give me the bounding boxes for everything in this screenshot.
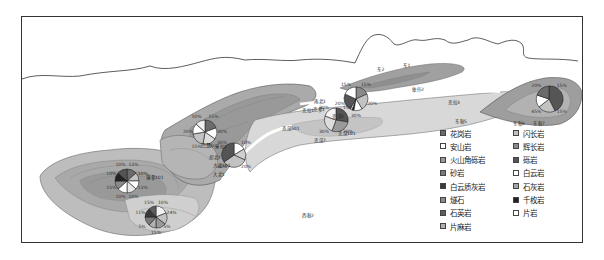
legend-label: 白云质灰岩 — [450, 181, 485, 192]
legend-swatch-icon — [440, 210, 446, 216]
legend-label: 闪长岩 — [523, 128, 544, 139]
pie-percent-label: 15% — [557, 110, 567, 115]
pie-percent-label: 11% — [135, 211, 145, 216]
legend-item: 砾岩 — [513, 155, 537, 165]
pie-percent-label: 5% — [164, 225, 171, 230]
pie-percent-label: 10% — [241, 141, 251, 146]
legend-label: 砾岩 — [523, 154, 537, 165]
pie-percent-label: 15% — [341, 83, 351, 88]
legend-label: 花岗岩 — [450, 128, 471, 139]
place-label: 东秋5 — [455, 119, 467, 124]
place-label: 牙拉1 — [215, 144, 227, 149]
pie-percent-label: 15% — [151, 231, 161, 236]
pie-percent-label: 30% — [319, 130, 329, 135]
legend-swatch-icon — [440, 170, 446, 176]
pie-chart-keshen1 — [193, 120, 217, 144]
pie-percent-label: 24% — [167, 211, 177, 216]
place-label: 蒲参101 — [146, 175, 164, 180]
pie-percent-label: 15% — [209, 115, 219, 120]
legend-label: 砂岩 — [450, 167, 464, 178]
place-label: 却北1 — [209, 155, 221, 160]
legend-label: 辉长岩 — [523, 141, 544, 152]
pie-percent-label: 5% — [138, 225, 145, 230]
place-label: 东1 — [403, 63, 410, 68]
pie-percent-label: 45% — [531, 110, 541, 115]
legend-item: 石灰岩 — [513, 181, 544, 191]
pie-percent-label: 20% — [531, 84, 541, 89]
legend-swatch-icon — [440, 197, 446, 203]
legend-item: 火山角砾岩 — [440, 155, 485, 165]
place-label: 东秋6 — [513, 121, 525, 126]
legend-label: 安山岩 — [450, 141, 471, 152]
pie-percent-label: 15% — [192, 145, 202, 150]
pie-percent-label: 15% — [106, 186, 116, 191]
place-label: 西秋2 — [302, 213, 314, 218]
legend-item: 白云岩 — [513, 168, 544, 178]
place-label: 大北101 — [213, 163, 231, 168]
place-label: 东秋7 — [533, 121, 545, 126]
legend-item: 千枚岩 — [513, 195, 544, 205]
place-label: 依什2 — [412, 87, 424, 92]
place-label: 巴楚1 — [201, 143, 213, 148]
pie-percent-label: 20% — [183, 130, 193, 135]
place-label: 东2 — [377, 67, 384, 72]
legend-swatch-icon — [440, 223, 446, 229]
pie-percent-label: 30% — [351, 114, 361, 119]
legend-swatch-icon — [440, 143, 446, 149]
legend-label: 片麻岩 — [450, 221, 471, 232]
mountain-boundary — [22, 34, 578, 79]
pie-percent-label: 10% — [158, 201, 168, 206]
place-label: 克参1 — [313, 107, 325, 112]
legend-swatch-icon — [513, 210, 519, 216]
pie-percent-label: 10% — [106, 172, 116, 177]
pie-percent-label: 20% — [367, 102, 377, 107]
legend-swatch-icon — [513, 183, 519, 189]
pie-percent-label: 15% — [361, 83, 371, 88]
place-label: 克拉3 — [448, 100, 460, 105]
pie-percent-label: 13% — [138, 186, 148, 191]
legend-item: 白云质灰岩 — [440, 181, 485, 191]
pie-percent-label: 10% — [115, 163, 125, 168]
legend-label: 石灰岩 — [523, 181, 544, 192]
legend-label: 片岩 — [523, 207, 537, 218]
legend-item: 砂岩 — [440, 168, 464, 178]
place-label: 克深7 — [314, 138, 326, 143]
place-label: 克深5 — [332, 114, 344, 119]
legend-swatch-icon — [513, 130, 519, 136]
legend-item: 花岗岩 — [440, 128, 471, 138]
pie-percent-label: 15% — [557, 84, 567, 89]
legend-label: 白云岩 — [523, 167, 544, 178]
legend-item: 辉长岩 — [513, 141, 544, 151]
legend-item: 石英岩 — [440, 208, 471, 218]
legend-item: 片岩 — [513, 208, 537, 218]
place-label: 克深101 — [338, 131, 356, 136]
pie-percent-label: 15% — [343, 106, 353, 111]
legend-label: 燧石 — [450, 194, 464, 205]
legend-swatch-icon — [513, 170, 519, 176]
legend-item: 闪长岩 — [513, 128, 544, 138]
legend-label: 千枚岩 — [523, 194, 544, 205]
pie-chart-pucan1 — [115, 169, 139, 193]
pie-percent-label: 13% — [129, 163, 139, 168]
place-label: 大北1 — [213, 172, 225, 177]
pie-percent-label: 10% — [115, 195, 125, 200]
place-label: 南北1 — [314, 99, 326, 104]
legend-swatch-icon — [440, 157, 446, 163]
legend-item: 安山岩 — [440, 141, 471, 151]
pie-percent-label: 20% — [241, 165, 251, 170]
legend-item: 片麻岩 — [440, 221, 471, 231]
pie-percent-label: 15% — [144, 201, 154, 206]
legend-swatch-icon — [440, 183, 446, 189]
pie-percent-label: 10% — [129, 195, 139, 200]
legend-swatch-icon — [513, 157, 519, 163]
legend-label: 火山角砾岩 — [450, 154, 485, 165]
legend-swatch-icon — [513, 143, 519, 149]
legend-swatch-icon — [440, 130, 446, 136]
legend-label: 石英岩 — [450, 207, 471, 218]
legend-item: 燧石 — [440, 195, 464, 205]
place-label: 克深501 — [282, 126, 300, 131]
legend-swatch-icon — [513, 197, 519, 203]
pie-percent-label: 10% — [192, 115, 202, 120]
pie-percent-label: 30% — [217, 130, 227, 135]
